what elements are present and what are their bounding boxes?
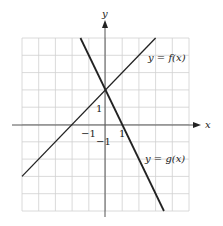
y-tick-neg-1: −1 xyxy=(96,136,111,147)
x-axis-label: x xyxy=(205,119,211,130)
graph: x y −1 1 1 −1 y = f(x) y = g(x) xyxy=(0,0,223,226)
x-axis-arrow-icon xyxy=(193,122,201,128)
y-tick-1: 1 xyxy=(96,103,102,114)
x-tick-1: 1 xyxy=(119,128,125,139)
y-axis-label: y xyxy=(101,8,108,19)
x-tick-neg-1: −1 xyxy=(81,128,96,139)
y-axis-arrow-icon xyxy=(102,20,108,28)
g-line-label: y = g(x) xyxy=(144,153,185,164)
f-line-label: y = f(x) xyxy=(147,52,186,63)
